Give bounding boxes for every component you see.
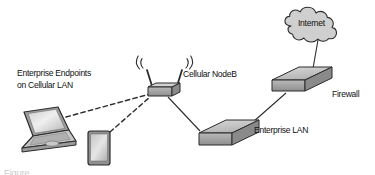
label-enterprise-lan: Enterprise LAN <box>254 124 308 136</box>
laptop-icon <box>22 107 76 152</box>
link-tablet-nodeb <box>110 97 150 132</box>
label-enterprise-endpoints-line2: on Cellular LAN <box>17 79 91 91</box>
link-laptop-nodeb <box>66 94 150 117</box>
network-diagram: Enterprise Endpoints on Cellular LAN Cel… <box>0 0 375 175</box>
link-lan-firewall <box>253 93 286 122</box>
label-cellular-nodeb: Cellular NodeB <box>183 68 237 80</box>
figure-caption-partial: Figure <box>4 168 194 175</box>
label-firewall: Firewall <box>332 88 359 100</box>
tablet-icon <box>88 131 110 165</box>
label-enterprise-endpoints-line1: Enterprise Endpoints <box>17 67 91 79</box>
firewall-icon <box>272 67 332 91</box>
link-nodeb-lan <box>168 97 200 131</box>
label-enterprise-endpoints: Enterprise Endpoints on Cellular LAN <box>17 67 91 90</box>
label-internet: Internet <box>298 17 325 29</box>
enterprise-lan-icon <box>199 120 259 145</box>
